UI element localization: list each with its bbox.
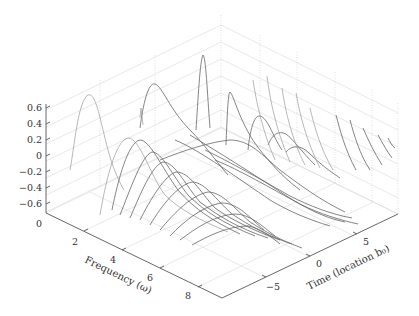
frequency-tick-label: 8	[185, 290, 191, 301]
left-wall-curves	[70, 55, 228, 190]
frequency-ticks: 2 4 6 8 Frequency (ω)	[72, 229, 202, 301]
z-tick-label: 0.4	[27, 118, 42, 129]
z-tick-label: −0.6	[19, 198, 42, 209]
frequency-tick-label: 6	[147, 272, 153, 283]
z-floor-label: 0	[36, 218, 42, 229]
frequency-tick-label: 4	[110, 254, 116, 265]
waterfall-curves	[100, 135, 358, 248]
time-tick-label: 0	[316, 258, 322, 269]
frequency-tick-label: 2	[72, 236, 78, 247]
time-tick-label: 5	[363, 236, 369, 247]
z-tick-label: 0	[36, 150, 42, 161]
z-tick-label: 0.2	[27, 134, 42, 145]
z-ticks: 0.6 0.4 0.2 0 −0.2 −0.4 −0.6 0	[19, 102, 50, 229]
z-tick-label: −0.4	[19, 182, 42, 193]
time-ticks: −5 0 5 Time (location b₀)	[262, 232, 391, 292]
z-tick-label: −0.2	[19, 166, 42, 177]
chart-3d-plot: 0.6 0.4 0.2 0 −0.2 −0.4 −0.6 0 2 4 6 8 F…	[0, 0, 419, 316]
time-tick-label: −5	[266, 281, 280, 292]
z-tick-label: 0.6	[27, 102, 42, 113]
